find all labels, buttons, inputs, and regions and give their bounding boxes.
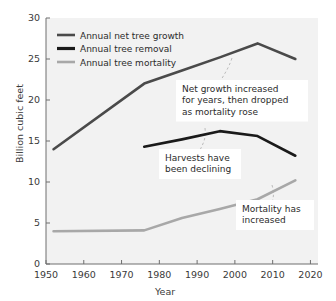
x-tick-label: 2010 — [261, 269, 285, 280]
y-tick-label: 25 — [28, 53, 40, 64]
x-tick-label: 2020 — [298, 269, 322, 280]
chart-container: 051015202530 195019601970198019902000201… — [0, 0, 336, 301]
x-tick-label: 2000 — [223, 269, 247, 280]
legend-label: Annual tree removal — [80, 44, 172, 54]
callout-line: Net growth increased — [182, 84, 278, 94]
net-growth-callout: Net growth increasedfor years, then drop… — [176, 80, 308, 122]
callout-line: Harvests have — [165, 153, 230, 163]
x-tick-label: 1960 — [72, 269, 96, 280]
y-tick-label: 10 — [28, 176, 40, 187]
x-tick-label: 1980 — [147, 269, 171, 280]
callout-line: increased — [242, 215, 286, 225]
x-axis-title: Year — [155, 286, 175, 297]
legend-label: Annual tree mortality — [80, 58, 177, 68]
callout-line: as mortality rose — [182, 107, 258, 117]
y-tick-label: 0 — [34, 258, 40, 269]
y-tick-label: 20 — [28, 94, 40, 105]
y-tick-label: 30 — [28, 12, 40, 23]
harvest-callout: Harvests havebeen declining — [159, 149, 241, 179]
legend-label: Annual net tree growth — [80, 31, 184, 41]
x-tick-label: 1990 — [185, 269, 209, 280]
line-chart: 051015202530 195019601970198019902000201… — [0, 0, 336, 301]
callout-line: Mortality has — [242, 204, 301, 214]
y-axis-title: Billion cubic feet — [14, 81, 25, 167]
y-tick-label: 15 — [28, 135, 40, 146]
callout-line: for years, then dropped — [182, 95, 288, 105]
y-tick-label: 5 — [34, 217, 40, 228]
callout-line: been declining — [165, 164, 231, 174]
x-tick-label: 1970 — [109, 269, 133, 280]
mortality-callout: Mortality hasincreased — [236, 200, 314, 230]
x-tick-label: 1950 — [34, 269, 58, 280]
